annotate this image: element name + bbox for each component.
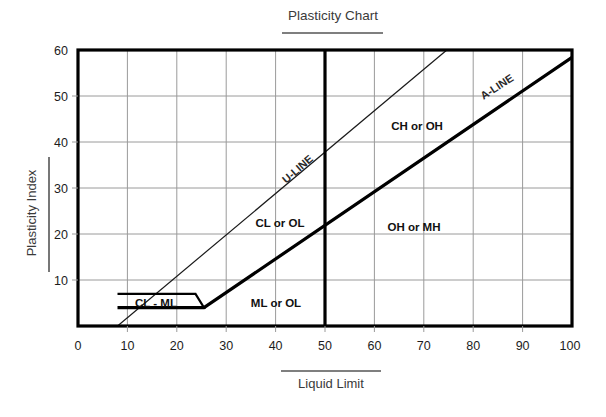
chart-svg: Plasticity Chart xyxy=(0,0,606,417)
x-tick-0: 0 xyxy=(75,339,82,353)
x-tick-70: 70 xyxy=(417,339,431,353)
y-tick-40: 40 xyxy=(54,136,68,150)
x-tick-80: 80 xyxy=(466,339,480,353)
a-line-label: A-LINE xyxy=(478,72,515,102)
y-tick-60: 60 xyxy=(54,44,68,58)
x-tick-60: 60 xyxy=(367,339,381,353)
zone-label-ch-or-oh: CH or OH xyxy=(391,120,443,132)
y-tick-10: 10 xyxy=(54,274,68,288)
x-tick-90: 90 xyxy=(516,339,530,353)
x-tick-20: 20 xyxy=(170,339,184,353)
plasticity-chart-figure: Plasticity Chart xyxy=(0,0,606,417)
x-tick-40: 40 xyxy=(269,339,283,353)
y-axis-ticks: 10 20 30 40 50 60 xyxy=(54,44,78,288)
zone-label-cl-ml: CL - ML xyxy=(135,297,177,309)
y-axis-title: Plasticity Index xyxy=(24,169,39,256)
y-tick-30: 30 xyxy=(54,182,68,196)
a-line xyxy=(118,57,573,307)
x-tick-50: 50 xyxy=(318,339,332,353)
x-axis-ticks: 0 10 20 30 40 50 60 70 80 90 100 xyxy=(75,326,581,353)
x-axis-title: Liquid Limit xyxy=(298,376,364,391)
y-tick-20: 20 xyxy=(54,228,68,242)
page-title: Plasticity Chart xyxy=(288,8,378,23)
zone-label-oh-or-mh: OH or MH xyxy=(387,221,440,233)
y-tick-50: 50 xyxy=(54,90,68,104)
zone-label-ml-or-ol: ML or OL xyxy=(251,297,301,309)
x-tick-10: 10 xyxy=(120,339,134,353)
u-line-label: U-LINE xyxy=(280,152,316,185)
zone-label-cl-or-ol: CL or OL xyxy=(256,217,305,229)
x-tick-30: 30 xyxy=(219,339,233,353)
x-tick-100: 100 xyxy=(560,339,581,353)
